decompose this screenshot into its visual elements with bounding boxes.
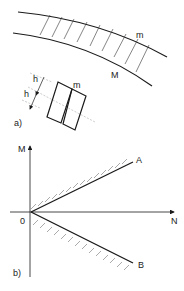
block-right <box>63 89 86 130</box>
point-B-label: B <box>138 260 144 270</box>
beam-label-M: M <box>111 70 119 80</box>
point-A-label: A <box>136 155 142 165</box>
block-label-m: m <box>73 80 81 90</box>
beam-section-lines <box>40 15 149 72</box>
line-OA <box>31 159 133 212</box>
origin-label: 0 <box>20 216 25 226</box>
axes <box>10 146 174 277</box>
y-axis-label: M <box>18 144 26 154</box>
beam-label-m: m <box>136 30 144 40</box>
dimension-label-h2: h <box>24 89 29 99</box>
dimension-label-h1: h <box>33 74 38 84</box>
x-axis-label: N <box>171 216 178 226</box>
diagram-canvas: m M h h m a) M N 0 A <box>0 0 184 291</box>
figure-b-label: b) <box>13 268 21 278</box>
figure-a-label: a) <box>14 118 22 128</box>
line-OB <box>31 212 133 270</box>
